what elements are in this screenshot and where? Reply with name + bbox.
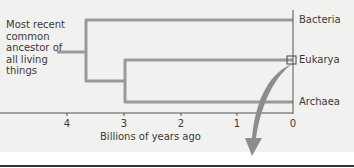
- tick-4: 4: [64, 118, 70, 129]
- tree-branches: [57, 20, 293, 102]
- tick-2: 2: [178, 118, 184, 129]
- root-branch: [86, 20, 293, 81]
- taxon-eukarya: Eukarya: [299, 54, 340, 66]
- x-axis-label: Billions of years ago: [100, 131, 201, 142]
- zoom-arrow-icon: [245, 64, 292, 156]
- tick-0: 0: [290, 118, 296, 129]
- tick-1: 1: [234, 118, 240, 129]
- taxon-bacteria: Bacteria: [299, 14, 341, 26]
- tick-3: 3: [121, 118, 127, 129]
- ancestor-label: Most recent common ancestor of all livin…: [6, 19, 66, 77]
- taxon-archaea: Archaea: [299, 96, 340, 108]
